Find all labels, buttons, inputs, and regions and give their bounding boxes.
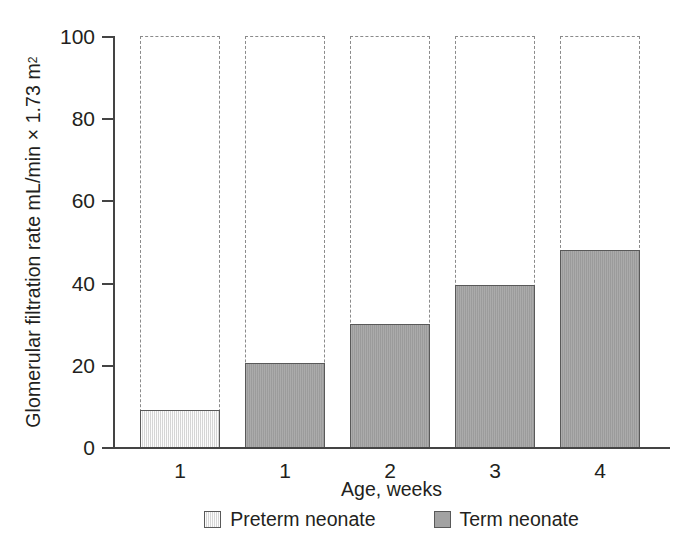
y-tick-label-100: 100: [60, 25, 95, 49]
y-tick-label-60: 60: [72, 189, 95, 213]
legend-swatch-preterm-icon: [204, 511, 221, 528]
y-tick-20: 20: [102, 365, 113, 367]
y-axis-title-text: Glomerular filtration rate mL/min × 1.73…: [22, 63, 45, 428]
bar-slot-1: 1: [245, 36, 325, 447]
legend-label-preterm: Preterm neonate: [230, 508, 375, 531]
y-tick-40: 40: [102, 283, 113, 285]
y-axis-line: [113, 36, 115, 447]
bar-fill-4[interactable]: [560, 250, 640, 447]
legend-item-term[interactable]: Term neonate: [434, 508, 579, 531]
y-tick-80: 80: [102, 118, 113, 120]
y-tick-label-80: 80: [72, 107, 95, 131]
gfr-bar-chart-figure: Glomerular filtration rate mL/min × 1.73…: [0, 0, 691, 541]
y-tick-100: 100: [102, 36, 113, 38]
bar-fill-2[interactable]: [350, 324, 430, 447]
bar-slot-0: 1: [140, 36, 220, 447]
bar-slot-3: 3: [455, 36, 535, 447]
legend-item-preterm[interactable]: Preterm neonate: [204, 508, 375, 531]
y-tick-label-40: 40: [72, 272, 95, 296]
bar-fill-0[interactable]: [140, 410, 220, 447]
y-tick-60: 60: [102, 200, 113, 202]
legend-swatch-term-icon: [434, 511, 451, 528]
plot-area: 100 80 60 40 20 0 1 1: [113, 36, 670, 447]
bar-slot-2: 2: [350, 36, 430, 447]
legend: Preterm neonate Term neonate: [113, 508, 670, 531]
bar-fill-1[interactable]: [245, 363, 325, 447]
y-tick-label-0: 0: [83, 436, 95, 460]
y-axis-title: Glomerular filtration rate mL/min × 1.73…: [12, 22, 54, 462]
bar-fill-3[interactable]: [455, 285, 535, 447]
legend-label-term: Term neonate: [460, 508, 579, 531]
y-tick-label-20: 20: [72, 354, 95, 378]
x-axis-title: Age, weeks: [113, 478, 670, 501]
y-tick-0: 0: [102, 447, 113, 449]
bar-slot-4: 4: [560, 36, 640, 447]
x-axis-line: [113, 447, 670, 449]
bar-outline-0: [140, 36, 220, 447]
